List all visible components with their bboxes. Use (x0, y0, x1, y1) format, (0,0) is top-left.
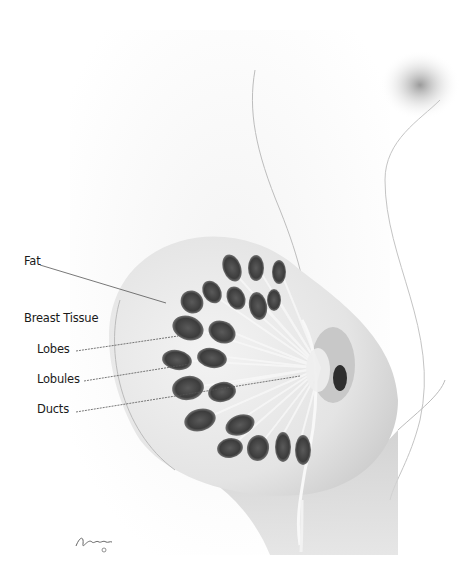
duct-hub (306, 348, 330, 392)
shoulder-shadow (380, 50, 460, 120)
label-ducts: Ducts (37, 402, 69, 416)
label-fat: Fat (24, 254, 41, 268)
artist-signature (74, 530, 114, 554)
nipple (333, 365, 347, 391)
nipple-drip (301, 500, 302, 552)
label-lobules: Lobules (37, 372, 80, 386)
label-lobes: Lobes (37, 342, 70, 356)
label-breast-tissue: Breast Tissue (24, 311, 98, 325)
breast-anatomy-illustration (0, 0, 466, 587)
